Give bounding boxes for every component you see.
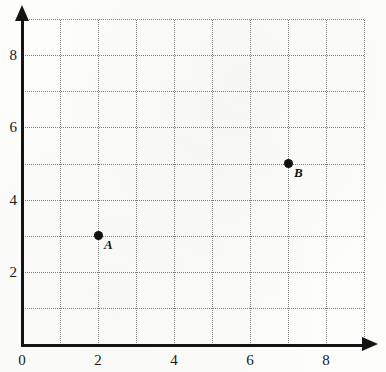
x-axis-line	[22, 344, 364, 347]
x-axis-tick-label: 6	[246, 353, 254, 368]
gridline-vertical	[326, 20, 327, 345]
x-axis-tick-label: 2	[94, 353, 102, 368]
data-point-a	[94, 231, 103, 240]
gridline-vertical	[98, 20, 99, 345]
gridline-vertical	[60, 20, 61, 345]
gridline-horizontal	[22, 236, 364, 237]
y-axis-tick-label: 8	[4, 48, 17, 63]
y-axis-tick-label: 2	[4, 264, 17, 279]
gridline-vertical	[212, 20, 213, 345]
gridline-horizontal	[22, 19, 364, 20]
gridline-horizontal	[22, 164, 364, 165]
data-point-b	[284, 159, 293, 168]
grid-area	[22, 20, 364, 345]
gridline-horizontal	[22, 127, 364, 128]
x-axis-tick-label: 8	[322, 353, 330, 368]
gridline-horizontal	[22, 200, 364, 201]
x-axis-tick-label: 4	[170, 353, 178, 368]
y-axis-arrowhead-icon	[15, 5, 29, 21]
x-axis-arrowhead-icon	[362, 337, 378, 351]
gridline-vertical	[174, 20, 175, 345]
gridline-horizontal	[22, 91, 364, 92]
y-axis-tick-label: 4	[4, 192, 17, 207]
x-axis-tick-label: 0	[18, 353, 26, 368]
y-axis-line	[21, 20, 24, 347]
data-point-label-a: A	[104, 238, 113, 251]
gridline-vertical	[288, 20, 289, 345]
gridline-vertical	[250, 20, 251, 345]
gridline-vertical	[364, 20, 365, 345]
coordinate-plane-figure: 024682468AB	[0, 0, 386, 372]
gridline-horizontal	[22, 308, 364, 309]
y-axis-tick-label: 6	[4, 120, 17, 135]
gridline-vertical	[136, 20, 137, 345]
gridline-horizontal	[22, 272, 364, 273]
gridline-horizontal	[22, 55, 364, 56]
data-point-label-b: B	[294, 166, 303, 179]
